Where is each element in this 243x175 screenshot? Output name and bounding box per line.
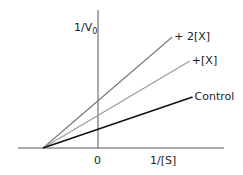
x-tick-label-0: 0: [94, 154, 101, 167]
y-axis-label: 1/V0: [74, 21, 97, 36]
series-label-control: Control: [195, 90, 235, 103]
x-axis-label: 1/[S]: [150, 154, 176, 167]
lineweaver-burk-chart: + 2[X]+[X]Control 1/V0 0 1/[S]: [0, 0, 243, 175]
series-line-control: [43, 97, 193, 148]
series-line-2-x: [43, 37, 172, 148]
y-axis-label-subscript: 0: [92, 27, 97, 36]
series-line-x: [43, 61, 190, 148]
series-label-2-x: + 2[X]: [174, 30, 210, 43]
series-label-x: +[X]: [192, 54, 217, 67]
